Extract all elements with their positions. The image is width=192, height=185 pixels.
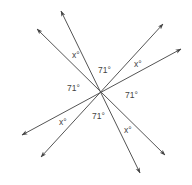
angle-label: 71° [98, 65, 111, 75]
line-c-double-arrow [41, 24, 163, 157]
lines-group [22, 11, 181, 173]
angle-label: 71° [92, 111, 105, 121]
angle-label: 71° [125, 90, 138, 100]
angle-label: x° [72, 50, 80, 60]
angle-label: x° [134, 59, 142, 69]
angle-label: 71° [67, 83, 80, 93]
line-d-double-arrow [22, 49, 181, 135]
angle-label: x° [124, 125, 132, 135]
angle-label: x° [59, 117, 67, 127]
intersecting-lines-diagram: x°71°x°71°71°x°71°x° [0, 0, 192, 185]
